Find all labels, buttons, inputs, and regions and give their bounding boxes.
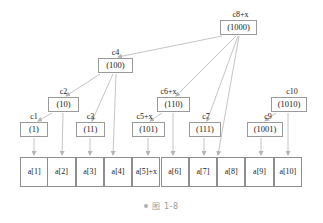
node-label-c7: c7 <box>190 112 222 121</box>
array-cell-4[interactable]: a[4] <box>104 157 132 187</box>
bullet-dot-icon <box>144 204 148 208</box>
node-label-c5: c5+x <box>128 112 161 121</box>
tree-node-c7[interactable]: (111) <box>189 122 221 137</box>
array-cell-10[interactable]: a[10] <box>274 157 302 187</box>
node-label-c6: c6+x <box>152 87 185 96</box>
array-cell-7[interactable]: a[7] <box>189 157 217 187</box>
edge-c2-to-a2 <box>62 113 63 155</box>
node-label-c8: c8+x <box>222 10 259 19</box>
edge-c8-to-c7 <box>207 36 238 121</box>
tree-node-c5[interactable]: (101) <box>132 122 165 137</box>
figure-caption: 图 1-8 <box>0 200 323 211</box>
array-cell-2[interactable]: a[2] <box>47 157 75 187</box>
tree-node-c10[interactable]: (1010) <box>271 97 307 112</box>
tree-node-c8[interactable]: (1000) <box>220 20 257 35</box>
node-label-c4: c4 <box>98 48 133 57</box>
array-cell-9[interactable]: a[9] <box>245 157 273 187</box>
tree-node-c4[interactable]: (100) <box>98 58 133 73</box>
node-label-c1: c1 <box>20 112 48 121</box>
edge-c8-to-c6 <box>176 36 236 96</box>
node-label-c2: c2 <box>48 87 79 96</box>
node-label-c9: c9 <box>250 112 286 121</box>
node-label-c10: c10 <box>274 87 310 96</box>
array-cell-8[interactable]: a[8] <box>217 157 245 187</box>
tree-node-c1[interactable]: (1) <box>20 122 48 137</box>
tree-node-c6[interactable]: (110) <box>157 97 190 112</box>
tree-node-c2[interactable]: (10) <box>48 97 79 112</box>
edge-c8-to-c4 <box>118 36 222 57</box>
array-cell-3[interactable]: a[3] <box>76 157 104 187</box>
edge-c8-to-a8 <box>218 36 239 155</box>
array-cell-6[interactable]: a[6] <box>161 157 189 187</box>
caption-text: 图 1-8 <box>152 202 178 211</box>
node-label-c3: c3 <box>76 112 105 121</box>
tree-node-c9[interactable]: (1001) <box>247 122 283 137</box>
array-cell-1[interactable]: a[1] <box>20 157 48 187</box>
edge-c4-to-a4 <box>113 74 116 155</box>
tree-node-c3[interactable]: (11) <box>76 122 105 137</box>
figure-container: c1(1)c2(10)c3(11)c4(100)c5+x(101)c6+x(11… <box>0 0 323 223</box>
array-cell-5[interactable]: a[5]+x <box>132 157 160 187</box>
